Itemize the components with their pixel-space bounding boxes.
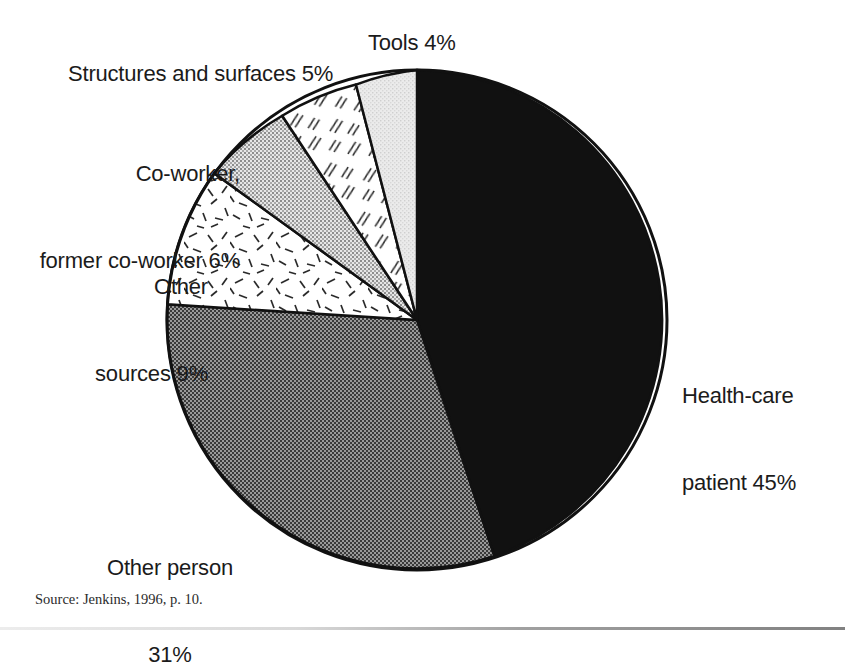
pie-label-health-care-line1: Health-care [682, 381, 796, 410]
pie-label-other-sources-line1: Other [95, 272, 208, 301]
pie-label-tools: Tools 4% [368, 28, 456, 57]
pie-label-health-care-line2: patient 45% [682, 468, 796, 497]
pie-label-health-care-patient: Health-care patient 45% [682, 323, 796, 555]
pie-label-structures-and-surfaces: Structures and surfaces 5% [68, 59, 333, 88]
pie-label-other-sources-line2: sources 9% [95, 359, 208, 388]
pie-label-other-person-line2: 31% [60, 640, 280, 666]
pie-label-co-worker-line1: Co-worker, [40, 159, 240, 188]
pie-label-other-person: Other person 31% [60, 495, 280, 666]
pie-label-other-sources: Other sources 9% [95, 214, 208, 446]
pie-label-other-person-line1: Other person [60, 553, 280, 582]
scan-edge-artifact [0, 627, 845, 630]
source-note: Source: Jenkins, 1996, p. 10. [35, 591, 203, 608]
